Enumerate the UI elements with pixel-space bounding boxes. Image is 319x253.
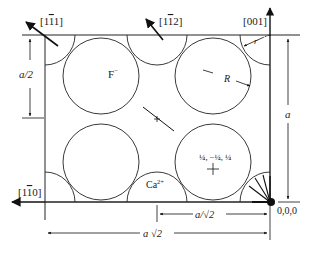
label-calcium: Ca2+ — [146, 178, 164, 190]
label-origin: 0,0,0 — [277, 205, 297, 216]
label-site-coordinates: ¼, −¼, ¼ — [199, 152, 231, 162]
label-dir-001: [001] — [243, 15, 267, 27]
label-dir-1-11: [111] — [40, 15, 63, 27]
dim-half-a: a/2 — [19, 68, 34, 80]
label-dir-1-12: [112] — [159, 15, 182, 27]
fluoride-ion-bottom-left — [63, 124, 139, 200]
label-large-radius: R — [223, 73, 230, 84]
label-small-radius: r — [254, 36, 258, 46]
origin-point — [267, 198, 275, 206]
calcium-fluoride-cell-diagram: [111] [112] [001] [110] F− Ca2+ R r ¼, −… — [0, 0, 319, 253]
fluoride-ion-top-right — [175, 38, 251, 114]
dim-a-over-root2: a/√2 — [195, 209, 215, 220]
label-dir-1-10: [110] — [18, 186, 41, 198]
fluoride-ion-top-left — [63, 38, 139, 114]
label-fluoride: F− — [108, 67, 118, 80]
dim-a-root2: a √2 — [143, 228, 163, 239]
dim-a: a — [285, 108, 291, 120]
fluoride-ion-bottom-right — [175, 124, 251, 200]
radius-pointers — [203, 35, 269, 86]
labels: [111] [112] [001] [110] F− Ca2+ R r ¼, −… — [18, 15, 297, 239]
